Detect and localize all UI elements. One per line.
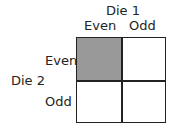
cell-odd-even <box>77 81 121 121</box>
column-label-even: Even <box>84 19 116 33</box>
die2-title: Die 2 <box>11 74 45 88</box>
die1-title: Die 1 <box>106 4 140 18</box>
grid-divider-horizontal <box>77 80 165 82</box>
cell-even-odd <box>122 38 165 80</box>
row-label-even: Even <box>45 54 77 68</box>
outcome-grid <box>76 37 166 123</box>
row-label-odd: Odd <box>45 95 72 109</box>
cell-even-even <box>77 38 121 80</box>
cell-odd-odd <box>122 81 165 121</box>
column-label-odd: Odd <box>129 19 156 33</box>
